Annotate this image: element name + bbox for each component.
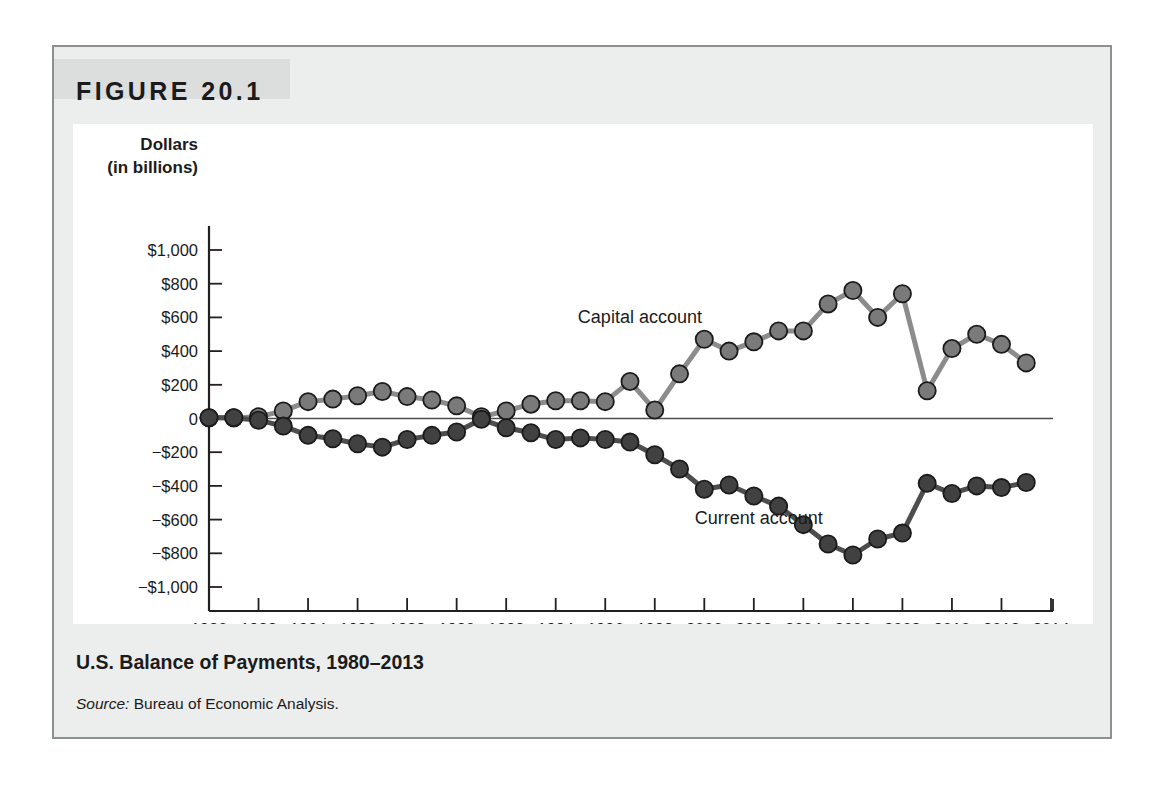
capital-account-data-point (919, 382, 936, 399)
x-tick-label: 2014 (1033, 620, 1070, 624)
current-account-data-point (448, 423, 465, 440)
current-account-data-point (943, 485, 960, 502)
current-account-data-point (324, 430, 341, 447)
capital-account-data-point (374, 383, 391, 400)
capital-account-data-point (820, 295, 837, 312)
capital-account-data-point (993, 336, 1010, 353)
capital-account-data-point (696, 331, 713, 348)
x-tick-label: 1994 (537, 620, 574, 624)
y-tick-label: $1,000 (148, 241, 198, 259)
series-annotation-capital-account: Capital account (578, 307, 702, 327)
y-tick-label: $600 (161, 308, 198, 326)
x-tick-label: 1982 (240, 620, 277, 624)
capital-account-data-point (869, 309, 886, 326)
y-tick-label: $800 (161, 275, 198, 293)
y-tick-label: $200 (161, 376, 198, 394)
y-tick-label: −$600 (152, 511, 198, 529)
capital-account-data-point (894, 285, 911, 302)
x-tick-label: 1986 (339, 620, 376, 624)
current-account-data-point (869, 530, 886, 547)
current-account-data-point (745, 487, 762, 504)
y-tick-label: $400 (161, 342, 198, 360)
current-account-data-point (250, 412, 267, 429)
capital-account-data-point (547, 392, 564, 409)
capital-account-data-point (448, 397, 465, 414)
y-tick-label: −$200 (152, 443, 198, 461)
current-account-data-point (696, 481, 713, 498)
line-chart: $1,000$800$600$400$2000−$200−$400−$600−$… (73, 124, 1093, 624)
current-account-data-point (844, 546, 861, 563)
x-tick-label: 1998 (636, 620, 673, 624)
current-account-data-point (993, 479, 1010, 496)
current-account-data-point (225, 409, 242, 426)
current-account-data-point (572, 429, 589, 446)
capital-account-data-point (968, 326, 985, 343)
current-account-data-point (894, 524, 911, 541)
current-account-data-point (349, 435, 366, 452)
figure-number-label: FIGURE 20.1 (76, 77, 263, 106)
current-account-data-point (646, 446, 663, 463)
capital-account-data-point (299, 393, 316, 410)
current-account-data-point (720, 476, 737, 493)
current-account-data-point (597, 431, 614, 448)
capital-account-data-point (1018, 354, 1035, 371)
x-tick-label: 2002 (735, 620, 772, 624)
current-account-data-point (621, 433, 638, 450)
current-account-data-point (423, 427, 440, 444)
y-tick-label: −$400 (152, 477, 198, 495)
x-tick-label: 2010 (934, 620, 971, 624)
x-tick-label: 1990 (438, 620, 475, 624)
x-tick-label: 1992 (488, 620, 525, 624)
y-tick-label: −$1,000 (138, 578, 198, 596)
current-account-data-point (200, 409, 217, 426)
capital-account-data-point (522, 396, 539, 413)
current-account-data-point (671, 460, 688, 477)
capital-account-data-point (671, 365, 688, 382)
current-account-data-point (968, 477, 985, 494)
figure-source-note: Source: Bureau of Economic Analysis. (76, 695, 339, 713)
capital-account-data-point (844, 282, 861, 299)
capital-account-data-point (399, 388, 416, 405)
capital-account-data-point (720, 343, 737, 360)
capital-account-data-point (324, 391, 341, 408)
current-account-data-point (919, 475, 936, 492)
y-axis-title-line2: (in billions) (107, 158, 198, 177)
chart-plot-panel: $1,000$800$600$400$2000−$200−$400−$600−$… (73, 124, 1093, 624)
capital-account-data-point (349, 387, 366, 404)
y-tick-label: −$800 (152, 544, 198, 562)
capital-account-data-point (621, 373, 638, 390)
capital-account-data-point (770, 322, 787, 339)
capital-account-data-point (572, 392, 589, 409)
y-tick-label: 0 (189, 410, 198, 428)
capital-account-data-point (795, 322, 812, 339)
source-text: Bureau of Economic Analysis. (129, 695, 338, 712)
capital-account-data-point (943, 340, 960, 357)
x-tick-label: 1984 (290, 620, 327, 624)
capital-account-data-point (498, 402, 515, 419)
capital-account-data-point (646, 401, 663, 418)
current-account-data-point (299, 427, 316, 444)
current-account-data-point (498, 419, 515, 436)
current-account-data-point (820, 535, 837, 552)
current-account-data-point (399, 431, 416, 448)
x-tick-label: 2012 (983, 620, 1020, 624)
x-tick-label: 1988 (389, 620, 426, 624)
capital-account-data-point (597, 393, 614, 410)
current-account-data-point (1018, 474, 1035, 491)
figure-number-banner: FIGURE 20.1 (54, 59, 290, 99)
y-axis-title-line1: Dollars (140, 135, 198, 154)
figure-card: FIGURE 20.1 $1,000$800$600$400$2000−$200… (52, 45, 1112, 739)
x-tick-label: 2006 (835, 620, 872, 624)
x-tick-label: 1996 (587, 620, 624, 624)
current-account-data-point (547, 431, 564, 448)
capital-account-data-point (423, 391, 440, 408)
x-tick-label: 2004 (785, 620, 822, 624)
figure-caption-title: U.S. Balance of Payments, 1980–2013 (76, 651, 424, 674)
current-account-data-point (473, 411, 490, 428)
source-prefix: Source: (76, 695, 129, 712)
current-account-data-point (275, 417, 292, 434)
x-tick-label: 1980 (191, 620, 228, 624)
current-account-data-point (522, 424, 539, 441)
series-annotation-current-account: Current account (695, 508, 823, 528)
x-tick-label: 2000 (686, 620, 723, 624)
